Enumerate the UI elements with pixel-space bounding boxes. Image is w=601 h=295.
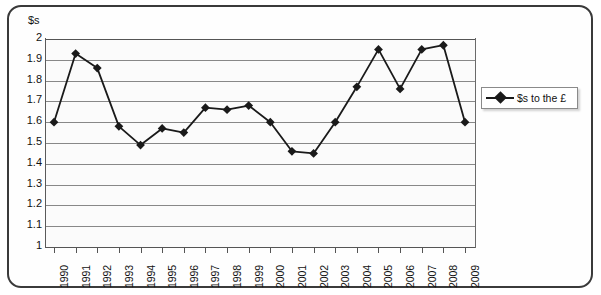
data-point-marker[interactable]: [374, 45, 383, 54]
data-point-marker[interactable]: [223, 105, 232, 114]
data-point-marker[interactable]: [352, 82, 361, 91]
data-point-marker[interactable]: [417, 45, 426, 54]
legend-diamond-marker-icon: [486, 92, 514, 104]
data-point-marker[interactable]: [396, 85, 405, 94]
legend-item-label: $s to the £: [517, 92, 566, 104]
data-point-marker[interactable]: [461, 118, 470, 127]
chart-container: $s 21.91.81.71.61.51.41.31.21.11 1990199…: [0, 0, 601, 295]
chart-legend[interactable]: $s to the £: [481, 87, 578, 109]
data-point-marker[interactable]: [50, 118, 59, 127]
data-point-marker[interactable]: [439, 41, 448, 50]
series-line: [54, 45, 465, 153]
data-series-layer: [0, 0, 601, 295]
